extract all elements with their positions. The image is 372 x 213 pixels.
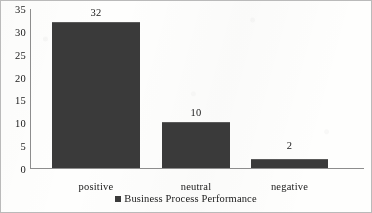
y-tick-label-0: 0 <box>2 164 26 175</box>
legend-item-label: Business Process Performance <box>124 193 257 204</box>
bar-group-positive[interactable]: 32 <box>52 8 140 168</box>
x-category-label-negative: negative <box>251 181 328 192</box>
x-category-label-neutral: neutral <box>158 181 234 192</box>
bar-value-positive: 32 <box>52 7 140 18</box>
y-axis-tick-labels: 35 30 25 20 15 10 5 0 <box>1 9 26 169</box>
bar-value-negative: 2 <box>251 140 328 151</box>
y-tick-label-20: 20 <box>2 72 26 83</box>
y-tick-label-35: 35 <box>2 4 26 15</box>
bar-group-negative[interactable]: 2 <box>251 8 328 168</box>
y-tick-label-5: 5 <box>2 141 26 152</box>
legend-square-marker-icon <box>115 196 121 202</box>
y-tick-label-25: 25 <box>2 49 26 60</box>
plot-area: 32 10 2 positive neutral negative <box>30 9 364 169</box>
bar-chart: 35 30 25 20 15 10 5 0 32 10 2 positive n… <box>0 0 372 213</box>
x-axis-line <box>30 168 364 169</box>
bar-neutral[interactable] <box>162 122 230 168</box>
chart-legend[interactable]: Business Process Performance <box>1 193 371 204</box>
y-axis-line <box>30 9 31 169</box>
x-category-label-positive: positive <box>52 181 140 192</box>
y-tick-label-30: 30 <box>2 26 26 37</box>
bar-value-neutral: 10 <box>162 107 230 118</box>
y-tick-label-15: 15 <box>2 95 26 106</box>
bar-positive[interactable] <box>52 22 140 168</box>
y-tick-label-10: 10 <box>2 118 26 129</box>
bar-negative[interactable] <box>251 159 328 168</box>
bar-group-neutral[interactable]: 10 <box>162 8 230 168</box>
